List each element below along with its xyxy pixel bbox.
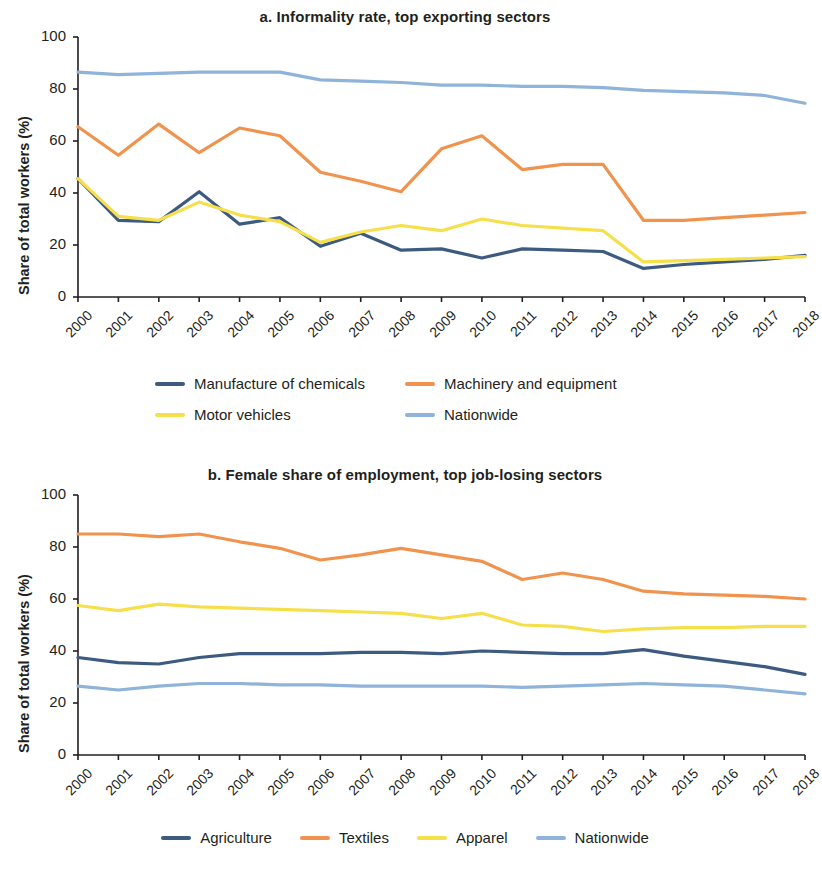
legend-swatch bbox=[155, 413, 185, 417]
series-line bbox=[78, 534, 805, 599]
series-line bbox=[78, 72, 805, 103]
panel-a-legend: Manufacture of chemicalsMachinery and eq… bbox=[0, 375, 810, 423]
legend-item[interactable]: Nationwide bbox=[405, 406, 655, 423]
y-tick-label: 0 bbox=[32, 287, 66, 304]
y-tick-label: 20 bbox=[32, 693, 66, 710]
legend-swatch bbox=[405, 382, 435, 386]
legend-item[interactable]: Agriculture bbox=[161, 829, 272, 846]
legend-item[interactable]: Motor vehicles bbox=[155, 406, 405, 423]
y-tick-label: 40 bbox=[32, 641, 66, 658]
legend-item[interactable]: Apparel bbox=[417, 829, 508, 846]
legend-item[interactable]: Textiles bbox=[300, 829, 389, 846]
y-tick-label: 100 bbox=[32, 485, 66, 502]
y-tick-label: 20 bbox=[32, 235, 66, 252]
panel-a-plot: Share of total workers (%) 020406080100 … bbox=[0, 25, 810, 355]
legend-swatch bbox=[405, 413, 435, 417]
legend-row: Manufacture of chemicalsMachinery and eq… bbox=[0, 375, 810, 392]
legend-label: Manufacture of chemicals bbox=[194, 375, 365, 392]
series-line bbox=[78, 684, 805, 694]
y-tick-label: 80 bbox=[32, 537, 66, 554]
legend-label: Nationwide bbox=[575, 829, 649, 846]
legend-swatch bbox=[161, 836, 191, 840]
panel-b-chart-canvas bbox=[0, 483, 810, 813]
legend-label: Textiles bbox=[339, 829, 389, 846]
panel-a-title: a. Informality rate, top exporting secto… bbox=[0, 0, 810, 25]
legend-item[interactable]: Machinery and equipment bbox=[405, 375, 655, 392]
series-line bbox=[78, 179, 805, 269]
legend-label: Motor vehicles bbox=[194, 406, 291, 423]
legend-swatch bbox=[300, 836, 330, 840]
axis-lines bbox=[78, 37, 805, 297]
legend-item[interactable]: Manufacture of chemicals bbox=[155, 375, 405, 392]
y-tick-label: 40 bbox=[32, 183, 66, 200]
series-line bbox=[78, 604, 805, 631]
legend-label: Nationwide bbox=[444, 406, 518, 423]
legend-item[interactable]: Nationwide bbox=[536, 829, 649, 846]
panel-b-y-axis-label: Share of total workers (%) bbox=[16, 574, 32, 753]
legend-swatch bbox=[417, 836, 447, 840]
legend-row: Motor vehiclesNationwide bbox=[0, 406, 810, 423]
legend-label: Machinery and equipment bbox=[444, 375, 617, 392]
panel-b-legend: AgricultureTextilesApparelNationwide bbox=[0, 829, 810, 846]
panel-a-chart-canvas bbox=[0, 25, 810, 355]
panel-a-y-axis-label: Share of total workers (%) bbox=[16, 116, 32, 295]
y-tick-label: 0 bbox=[32, 745, 66, 762]
legend-swatch bbox=[155, 382, 185, 386]
y-tick-label: 80 bbox=[32, 79, 66, 96]
panel-a: a. Informality rate, top exporting secto… bbox=[0, 0, 810, 460]
legend-label: Agriculture bbox=[200, 829, 272, 846]
panel-b-title: b. Female share of employment, top job-l… bbox=[0, 460, 810, 483]
panel-b: b. Female share of employment, top job-l… bbox=[0, 460, 810, 870]
legend-label: Apparel bbox=[456, 829, 508, 846]
legend-swatch bbox=[536, 836, 566, 840]
y-tick-label: 100 bbox=[32, 27, 66, 44]
y-tick-label: 60 bbox=[32, 131, 66, 148]
y-tick-label: 60 bbox=[32, 589, 66, 606]
series-line bbox=[78, 650, 805, 675]
panel-b-plot: Share of total workers (%) 020406080100 … bbox=[0, 483, 810, 813]
legend-row: AgricultureTextilesApparelNationwide bbox=[0, 829, 810, 846]
